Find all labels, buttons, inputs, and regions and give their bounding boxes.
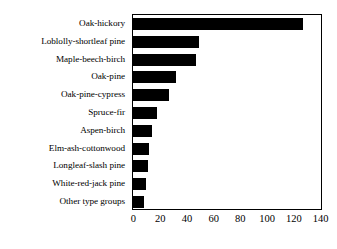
category-label: Elm-ash-cottonwood — [0, 143, 125, 153]
category-label: Other type groups — [0, 196, 125, 206]
bar-row — [133, 196, 322, 208]
bar-row — [133, 71, 322, 83]
x-tick-label: 120 — [286, 212, 302, 225]
bar — [133, 160, 148, 172]
bar — [133, 89, 169, 101]
category-axis: Oak-hickoryLoblolly-shortleaf pineMaple-… — [0, 14, 129, 210]
x-tick-label: 40 — [182, 212, 193, 225]
category-label: Longleaf-slash pine — [0, 160, 125, 170]
category-label: Oak-pine — [0, 71, 125, 81]
x-tick-label: 100 — [259, 212, 275, 225]
bar-row — [133, 89, 322, 101]
bar-row — [133, 54, 322, 66]
bar-row — [133, 18, 322, 30]
x-axis: 020406080100120140 — [0, 212, 337, 232]
x-tick-label: 60 — [208, 212, 219, 225]
category-label: Oak-pine-cypress — [0, 89, 125, 99]
category-label: Aspen-birch — [0, 125, 125, 135]
category-label: White-red-jack pine — [0, 178, 125, 188]
bar — [133, 54, 196, 66]
bar — [133, 107, 157, 119]
bar — [133, 36, 199, 48]
plot-area — [132, 14, 322, 210]
bar-row — [133, 36, 322, 48]
x-tick-label: 140 — [313, 212, 329, 225]
bar — [133, 18, 303, 30]
category-label: Maple-beech-birch — [0, 54, 125, 64]
bar-chart: Oak-hickoryLoblolly-shortleaf pineMaple-… — [0, 0, 337, 249]
x-tick-label: 80 — [235, 212, 246, 225]
bar — [133, 143, 149, 155]
bar-row — [133, 107, 322, 119]
bar-row — [133, 125, 322, 137]
category-label: Loblolly-shortleaf pine — [0, 36, 125, 46]
category-label: Spruce-fir — [0, 107, 125, 117]
bar — [133, 196, 144, 208]
x-tick-label: 20 — [155, 212, 166, 225]
x-tick-label: 0 — [131, 212, 136, 225]
bar-row — [133, 143, 322, 155]
bar — [133, 71, 176, 83]
bar — [133, 125, 152, 137]
category-label: Oak-hickory — [0, 18, 125, 28]
bar — [133, 178, 146, 190]
bar-row — [133, 160, 322, 172]
bar-row — [133, 178, 322, 190]
